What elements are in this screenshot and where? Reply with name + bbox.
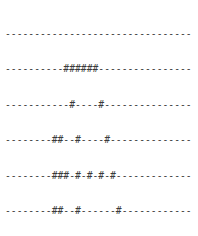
ascii-row-1: -------------------------------- <box>5 28 192 40</box>
ascii-row-6: --------##--#------#------------ <box>5 205 192 217</box>
ascii-row-2: ----------######---------------- <box>5 63 192 75</box>
ascii-row-5: --------###-#-#-#-#------------- <box>5 170 192 182</box>
ascii-row-3: -----------#----#--------------- <box>5 99 192 111</box>
ascii-art-grid: -------------------------------- -------… <box>5 4 192 236</box>
ascii-row-4: --------##--#----#-------------- <box>5 134 192 146</box>
